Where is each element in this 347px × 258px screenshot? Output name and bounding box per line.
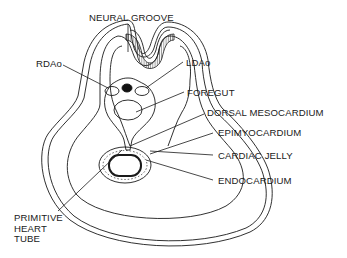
embryo-cross-section-diagram: NEURAL GROOVE RDAo LDAo FOREGUT DORSAL M… [0, 0, 347, 258]
dorsal-mesocardium-leader [130, 114, 204, 146]
foregut [114, 100, 142, 120]
label-endocardium: ENDOCARDIUM [218, 176, 292, 186]
label-foregut: FOREGUT [187, 88, 235, 98]
label-neural-groove: NEURAL GROOVE [89, 13, 174, 23]
label-ldao: LDAo [186, 58, 210, 68]
notochord [122, 84, 132, 92]
cardiac-jelly-leader [150, 151, 213, 155]
label-primitive-heart-tube: PRIMITIVE HEART TUBE [14, 213, 63, 245]
endocardium-leader [146, 160, 213, 180]
neural-groove-hatch [126, 34, 174, 69]
label-cardiac-jelly: CARDIAC JELLY [218, 151, 293, 161]
epimyocardium-leader [150, 133, 213, 154]
inner-contour-2 [110, 46, 191, 146]
label-rdao: RDAo [36, 59, 62, 69]
rdao-leader [63, 65, 108, 88]
label-dorsal-mesocardium: DORSAL MESOCARDIUM [207, 108, 324, 118]
label-epimyocardium: EPIMYOCARDIUM [218, 128, 301, 138]
